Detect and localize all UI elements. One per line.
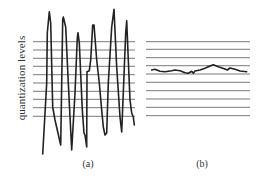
plot-canvas [0, 0, 259, 176]
signal-waveform-a [43, 9, 135, 154]
quantization-levels-b [146, 42, 250, 116]
y-axis-label: quantization levels [15, 36, 27, 121]
quantization-figure: quantization levels (a) (b) [0, 0, 259, 176]
panel-a [33, 9, 135, 154]
caption-b: (b) [196, 158, 208, 169]
panel-b [146, 42, 250, 116]
caption-a: (a) [82, 158, 93, 169]
